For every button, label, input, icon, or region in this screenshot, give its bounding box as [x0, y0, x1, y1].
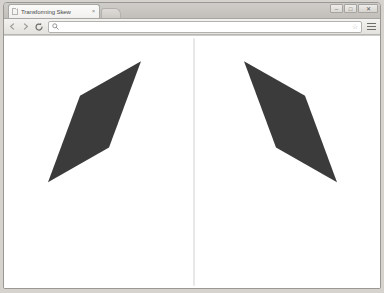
forward-arrow-icon: [21, 22, 30, 31]
reload-icon: [34, 22, 44, 32]
tab-strip: Transforming Skew × – □ ✕: [4, 3, 380, 19]
maximize-button[interactable]: □: [344, 4, 357, 13]
skewed-parallelogram-right: [244, 61, 337, 182]
page-viewport: [4, 35, 380, 288]
reload-button[interactable]: [33, 21, 44, 33]
browser-tab[interactable]: Transforming Skew ×: [8, 4, 100, 18]
close-icon[interactable]: ×: [90, 8, 97, 15]
bookmark-star-icon[interactable]: ☆: [352, 23, 358, 31]
menu-line-1: [367, 23, 376, 25]
menu-line-2: [367, 26, 376, 28]
maximize-icon: □: [345, 5, 356, 12]
close-button[interactable]: ✕: [358, 4, 378, 13]
forward-button[interactable]: [20, 21, 31, 33]
window-controls: – □ ✕: [330, 4, 378, 13]
tab-title: Transforming Skew: [21, 8, 90, 16]
back-button[interactable]: [7, 21, 18, 33]
minimize-button[interactable]: –: [330, 4, 343, 13]
navigation-toolbar: ☆: [4, 19, 380, 35]
minimize-icon: –: [331, 5, 342, 12]
hamburger-menu-icon[interactable]: [366, 21, 377, 33]
new-tab-button[interactable]: [101, 8, 121, 18]
skewed-parallelogram-left: [48, 61, 141, 182]
address-bar[interactable]: ☆: [48, 21, 362, 33]
close-window-icon: ✕: [359, 5, 377, 12]
search-icon: [52, 23, 59, 30]
menu-line-3: [367, 29, 376, 31]
browser-window: Transforming Skew × – □ ✕: [3, 2, 381, 289]
skew-demo-canvas: [4, 36, 380, 288]
back-arrow-icon: [8, 22, 17, 31]
page-icon: [12, 8, 18, 15]
